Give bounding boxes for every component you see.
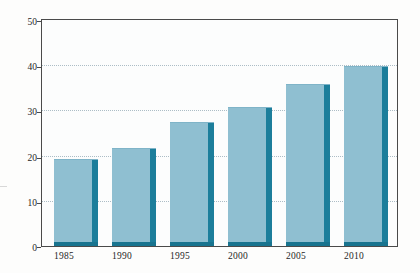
bar-top-edge [228,107,272,108]
y-axis-tick-label-30: 30 [12,108,37,118]
x-axis-tick-label-2000: 2000 [208,252,268,262]
y-axis-tick-label-50: 50 [12,18,37,28]
bar-shadow [92,159,98,246]
bar-top-edge [54,159,98,160]
bar-base [228,242,272,246]
bar-top-edge [344,66,388,67]
bar-top-edge [112,148,156,149]
bar-face [54,159,92,246]
bar-shadow [208,122,214,246]
scan-artifact-left [0,186,7,187]
y-axis-tick-mark-0 [37,247,41,248]
y-axis-tick-label-20: 20 [12,154,37,164]
plot-area [41,19,398,247]
bar-shadow [266,107,272,246]
bar-base [170,242,214,246]
x-axis-tick-label-1995: 1995 [150,252,210,262]
x-axis-tick-label-2010: 2010 [324,252,384,262]
bar-base [286,242,330,246]
bar-shadow [382,66,388,246]
bar-face [112,148,150,246]
bar-chart-figure: 50 40 30 20 10 0 [0,0,420,273]
bar-1985 [54,159,98,246]
bar-shadow [150,148,156,246]
bar-1990 [112,148,156,246]
x-axis-tick-label-1985: 1985 [34,252,94,262]
bar-2000 [228,107,272,246]
bar-face [228,107,266,246]
bar-base [54,242,98,246]
bar-shadow [324,84,330,246]
plot-inner [42,20,397,246]
bar-1995 [170,122,214,246]
bar-2010 [344,66,388,246]
bar-top-edge [170,122,214,123]
bar-face [344,66,382,246]
y-axis-tick-label-10: 10 [12,199,37,209]
bar-base [112,242,156,246]
bar-base [344,242,388,246]
y-axis-tick-label-40: 40 [12,63,37,73]
x-axis-tick-label-1990: 1990 [92,252,152,262]
bar-face [286,84,324,246]
x-axis-tick-label-2005: 2005 [266,252,326,262]
bar-2005 [286,84,330,246]
bar-face [170,122,208,246]
bar-top-edge [286,84,330,85]
